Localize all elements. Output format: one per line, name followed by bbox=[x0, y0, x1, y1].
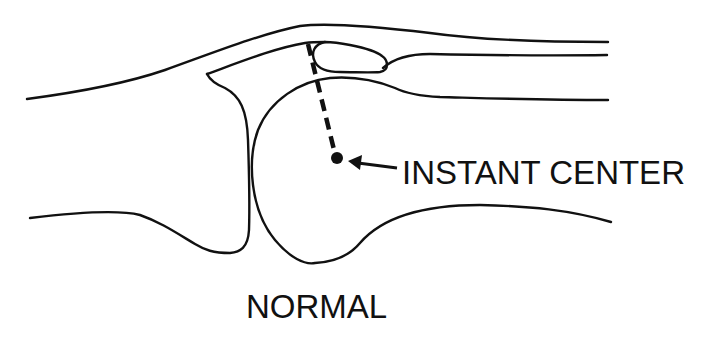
instant-center-point bbox=[331, 152, 343, 164]
pointer-arrow-head bbox=[348, 155, 362, 170]
instant-center-label: INSTANT CENTER bbox=[402, 156, 685, 189]
pointer-arrow-shaft bbox=[358, 163, 397, 168]
diagram-caption: NORMAL bbox=[246, 290, 387, 323]
radius-dashed-line bbox=[308, 44, 336, 158]
tendon-loop bbox=[313, 42, 387, 72]
proximal-bone-head bbox=[30, 74, 249, 253]
tendon-band bbox=[383, 54, 607, 68]
